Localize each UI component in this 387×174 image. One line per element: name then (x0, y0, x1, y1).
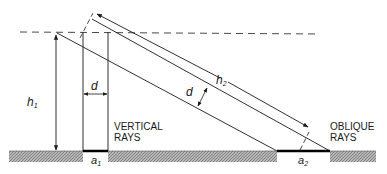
a1-label: a1 (91, 154, 101, 167)
rays-diagram: h1 h2 d d a1 a2 VERTICAL RAYS OBLIQUE RA… (0, 0, 387, 174)
h2-arrow-lower (228, 82, 308, 127)
ground-segment-left (9, 151, 83, 162)
oblique-rays-caption-line2: RAYS (330, 132, 357, 143)
ground-segment-middle (108, 151, 277, 162)
oblique-rays-caption-line1: OBLIQUE (330, 121, 375, 132)
h2-arrow-upper (97, 14, 220, 78)
h1-label: h1 (27, 95, 38, 109)
ground-segment-right (330, 151, 376, 162)
d-vertical-label: d (91, 79, 98, 93)
a2-label: a2 (298, 154, 308, 167)
vertical-rays-caption-line2: RAYS (114, 132, 141, 143)
oblique-top-perpendicular (80, 13, 93, 38)
vertical-rays-caption-line1: VERTICAL (114, 121, 163, 132)
h2-label: h2 (216, 73, 227, 87)
d-oblique-label: d (186, 85, 193, 99)
top-reference-dashed-line (20, 32, 320, 34)
d-oblique-arrow (198, 88, 207, 106)
ground (9, 151, 376, 162)
